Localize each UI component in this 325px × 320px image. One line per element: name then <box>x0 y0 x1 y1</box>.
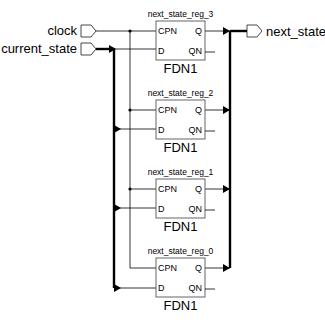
port-next-state[interactable]: next_state <box>247 24 325 39</box>
port-current-state-label: current_state <box>1 41 77 56</box>
bus-ripper-icon <box>114 125 121 133</box>
pin-q: Q <box>195 263 202 273</box>
pin-qn: QN <box>189 283 203 293</box>
cell-type: FDN1 <box>164 140 198 155</box>
output-port-icon <box>247 25 262 37</box>
junction-dot <box>128 29 131 32</box>
pin-cpn: CPN <box>158 184 177 194</box>
pin-qn: QN <box>189 204 203 214</box>
instance-next-state-reg-1[interactable]: next_state_reg_1 CPN D Q QN FDN1 <box>148 167 215 234</box>
port-next-state-label: next_state <box>266 24 325 39</box>
net-next-state[interactable] <box>205 27 247 272</box>
net-clock[interactable] <box>96 29 156 268</box>
pin-qn: QN <box>189 46 203 56</box>
instance-next-state-reg-3[interactable]: next_state_reg_3 CPN D Q QN FDN1 <box>148 9 215 76</box>
instance-next-state-reg-0[interactable]: next_state_reg_0 CPN D Q QN FDN1 <box>148 246 215 313</box>
port-clock-label: clock <box>47 23 77 38</box>
pin-d: D <box>158 46 165 56</box>
pin-q: Q <box>195 26 202 36</box>
schematic: clock current_state next_state <box>0 0 325 320</box>
pin-cpn: CPN <box>158 26 177 36</box>
cell-type: FDN1 <box>164 61 198 76</box>
pin-d: D <box>158 204 165 214</box>
bus-ripper-icon <box>114 284 121 292</box>
pin-d: D <box>158 125 165 135</box>
instance-name: next_state_reg_2 <box>148 88 214 98</box>
instance-next-state-reg-2[interactable]: next_state_reg_2 CPN D Q QN FDN1 <box>148 88 215 155</box>
bus-ripper-icon <box>114 204 121 212</box>
instance-name: next_state_reg_0 <box>148 246 214 256</box>
pin-cpn: CPN <box>158 263 177 273</box>
cell-type: FDN1 <box>164 219 198 234</box>
pin-cpn: CPN <box>158 105 177 115</box>
input-port-icon <box>81 25 96 37</box>
pin-d: D <box>158 283 165 293</box>
input-port-icon <box>81 43 96 55</box>
cell-type: FDN1 <box>164 298 198 313</box>
port-clock[interactable]: clock <box>47 23 96 38</box>
port-current-state[interactable]: current_state <box>1 41 96 56</box>
junction-dot <box>128 187 131 190</box>
pin-q: Q <box>195 184 202 194</box>
pin-q: Q <box>195 105 202 115</box>
pin-qn: QN <box>189 125 203 135</box>
instance-name: next_state_reg_1 <box>148 167 214 177</box>
instance-name: next_state_reg_3 <box>148 9 214 19</box>
junction-dot <box>128 108 131 111</box>
